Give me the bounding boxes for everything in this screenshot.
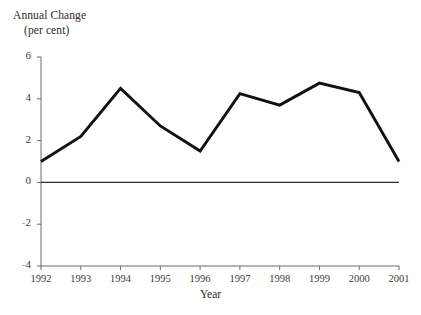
x-axis-ticks: [41, 266, 399, 270]
y-axis-ticks: [37, 57, 41, 266]
data-series-line: [41, 83, 399, 161]
chart-container: Annual Change (per cent) Year 6420-2-4 1…: [0, 0, 421, 315]
plot-area: [0, 0, 421, 315]
